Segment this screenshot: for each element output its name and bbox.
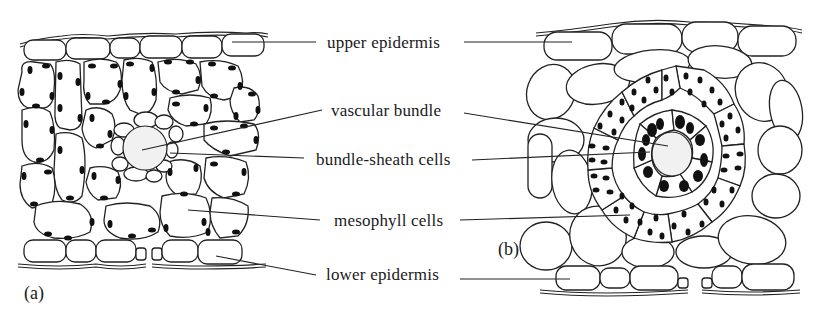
label-upper-epidermis: upper epidermis [327, 34, 440, 51]
panel-b-drawing [519, 20, 807, 296]
label-vascular-bundle: vascular bundle [331, 102, 441, 119]
leaf-cross-section-figure: upper epidermis vascular bundle bundle-s… [0, 0, 829, 315]
panel-label-b: (b) [498, 240, 519, 258]
vascular-bundle-b [652, 132, 692, 176]
upper-epidermis-cells-a [24, 34, 264, 60]
label-mesophyll-cells: mesophyll cells [334, 212, 443, 229]
lower-epidermis-cells-a [24, 240, 242, 264]
lower-epidermis-cells-b [556, 264, 794, 290]
vascular-bundle-a [123, 126, 167, 170]
panel-a-drawing [18, 32, 268, 269]
label-bundle-sheath-cells: bundle-sheath cells [316, 151, 451, 168]
label-lower-epidermis: lower epidermis [326, 266, 439, 283]
panel-label-a: (a) [24, 284, 44, 302]
